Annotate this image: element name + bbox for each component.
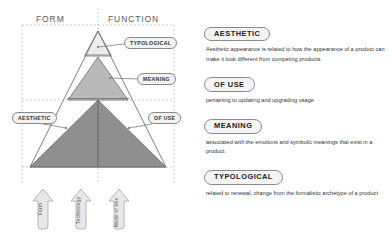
definition-heading-typological: TYPOLOGICAL bbox=[204, 170, 283, 185]
arrow-mode-of-use bbox=[109, 189, 129, 229]
definition-body-aesthetic: Aesthetic appearance is related to how t… bbox=[206, 45, 388, 63]
arrow-form bbox=[33, 189, 53, 229]
definition-entry: MEANING associated with the emotions and… bbox=[204, 114, 389, 156]
anchor-typological bbox=[97, 46, 99, 48]
arrow-technology bbox=[71, 189, 91, 229]
arrow-label-mode-of-use: Mode of Use bbox=[114, 197, 119, 227]
diagram-page: FORM FUNCTION TYPOLOGICAL MEANING AESTHE… bbox=[0, 0, 389, 233]
arrow-label-technology: Technology bbox=[76, 197, 81, 224]
tier-top bbox=[85, 31, 111, 55]
definitions-panel: AESTHETIC Aesthetic appearance is relate… bbox=[204, 22, 389, 207]
tier-bottom-right bbox=[98, 100, 166, 167]
anchor-meaning bbox=[109, 77, 111, 79]
definition-entry: OF USE pertaining to updating and upgrad… bbox=[204, 73, 389, 106]
arrow-label-form: Form bbox=[38, 203, 43, 215]
pyramid-diagram: FORM FUNCTION TYPOLOGICAL MEANING AESTHE… bbox=[0, 0, 200, 233]
axis-label-function: FUNCTION bbox=[108, 14, 159, 24]
definition-heading-meaning: MEANING bbox=[204, 119, 262, 134]
tier-bottom-left bbox=[30, 100, 98, 167]
definition-heading-aesthetic: AESTHETIC bbox=[204, 27, 270, 42]
definition-entry: AESTHETIC Aesthetic appearance is relate… bbox=[204, 22, 389, 64]
definition-entry: TYPOLOGICAL related to renewal, change f… bbox=[204, 165, 389, 198]
callout-typological[interactable]: TYPOLOGICAL bbox=[124, 37, 177, 49]
leader-meaning bbox=[111, 78, 137, 79]
definition-body-meaning: associated with the emotions and symboli… bbox=[206, 138, 388, 156]
definition-body-typological: related to renewal, change from the form… bbox=[206, 189, 388, 198]
definition-body-of-use: pertaining to updating and upgrading usa… bbox=[206, 96, 388, 105]
definition-heading-of-use: OF USE bbox=[204, 77, 255, 92]
axis-label-form: FORM bbox=[36, 14, 65, 24]
callout-of-use[interactable]: OF USE bbox=[148, 112, 181, 124]
callout-meaning[interactable]: MEANING bbox=[137, 73, 176, 85]
callout-aesthetic[interactable]: AESTHETIC bbox=[12, 112, 57, 124]
